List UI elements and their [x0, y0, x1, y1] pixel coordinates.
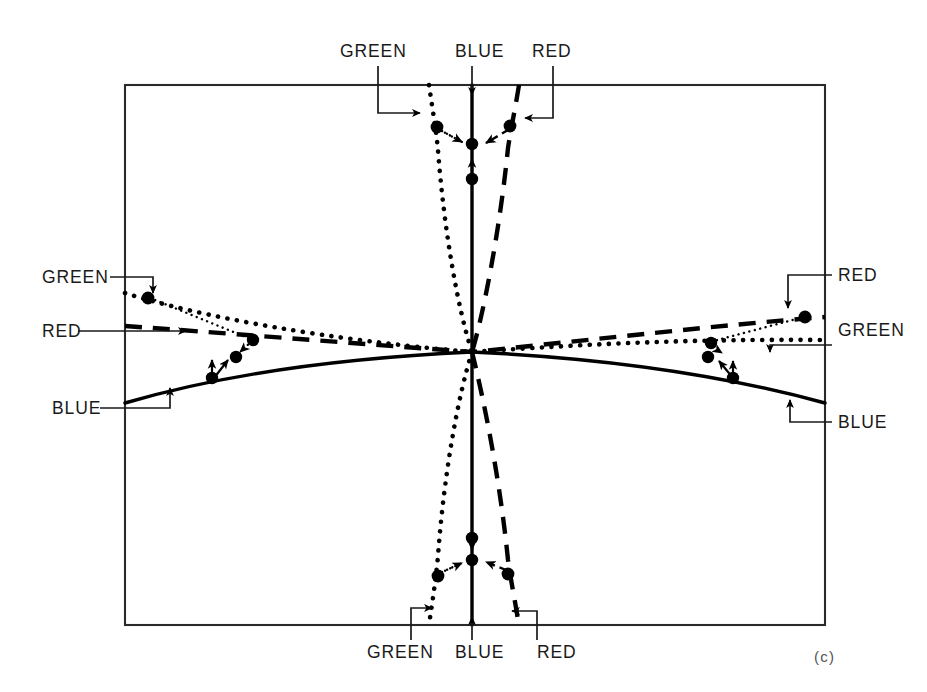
- marker-cluster-left: [230, 351, 242, 363]
- marker-green-right: [705, 337, 717, 349]
- marker-red-top: [504, 120, 517, 133]
- label-top-blue: BLUE: [455, 41, 504, 61]
- marker-green-top: [431, 121, 444, 134]
- figure-container: GREEN BLUE RED GREEN BLUE RED GREEN RED …: [0, 0, 927, 692]
- marker-blue-left: [206, 372, 218, 384]
- curve-red-vertical-bottom: [472, 352, 518, 620]
- arrow-red-to-cluster-top: [486, 130, 508, 143]
- label-top-green: GREEN: [340, 41, 407, 61]
- marker-cluster-right: [702, 351, 714, 363]
- leader-green-right: [770, 345, 832, 352]
- marker-red-right: [799, 311, 812, 324]
- aberration-diagram: GREEN BLUE RED GREEN BLUE RED GREEN RED …: [0, 0, 927, 692]
- marker-green-bottom: [432, 570, 445, 583]
- label-left-red: RED: [42, 321, 82, 341]
- plot-frame: [125, 85, 825, 625]
- marker-blue-top: [466, 173, 478, 185]
- marker-cluster-top: [466, 138, 478, 150]
- marker-red-left: [247, 334, 259, 346]
- label-right-blue: BLUE: [838, 412, 887, 432]
- leader-blue-left: [100, 388, 170, 408]
- label-bottom-red: RED: [537, 642, 577, 662]
- arrow-red-to-cluster-bottom: [486, 562, 506, 570]
- leader-green-top: [378, 66, 420, 113]
- marker-red-bottom: [502, 568, 515, 581]
- label-left-green: GREEN: [42, 267, 109, 287]
- label-bottom-green: GREEN: [367, 642, 434, 662]
- label-left-blue: BLUE: [52, 398, 101, 418]
- marker-blue-right: [727, 372, 739, 384]
- marker-blue-bottom: [466, 532, 478, 544]
- panel-label: (c): [814, 648, 835, 665]
- marker-green-left: [142, 292, 155, 305]
- leader-red-top: [525, 66, 553, 118]
- label-top-red: RED: [532, 41, 572, 61]
- label-bottom-blue: BLUE: [455, 642, 504, 662]
- leader-green-left: [110, 277, 153, 293]
- label-right-green: GREEN: [838, 320, 905, 340]
- marker-cluster-bottom: [466, 554, 478, 566]
- label-right-red: RED: [838, 265, 878, 285]
